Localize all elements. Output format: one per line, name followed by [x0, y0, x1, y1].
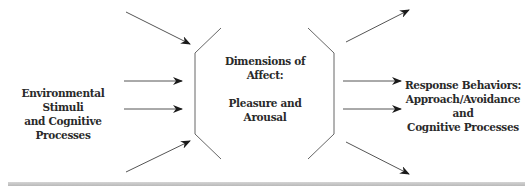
output-label: Response Behaviors: Approach/Avoidance a… — [402, 78, 524, 134]
output-label-line2: Approach/Avoidance and — [402, 92, 524, 120]
center-label-line2: Affect: — [222, 68, 308, 82]
output-label-line1: Response Behaviors: — [402, 78, 524, 92]
center-label-line4: Arousal — [222, 110, 308, 124]
center-label-line3: Pleasure and — [222, 96, 308, 110]
input-label: Environmental Stimuli and Cognitive Proc… — [2, 86, 124, 142]
input-label-line1: Environmental Stimuli — [2, 86, 124, 114]
output-arrow-bottom — [346, 142, 409, 174]
output-label-line3: Cognitive Processes — [402, 120, 524, 134]
input-arrow-bottom — [126, 141, 190, 172]
center-label-line1: Dimensions of — [222, 54, 308, 68]
bottom-divider-bar — [8, 182, 525, 186]
input-label-line2: and Cognitive Processes — [2, 114, 124, 142]
left-bracket — [195, 28, 221, 159]
center-label-spacer — [222, 82, 308, 96]
stimulus-affect-response-diagram: Environmental Stimuli and Cognitive Proc… — [0, 0, 525, 186]
input-arrow-top — [126, 12, 190, 44]
center-label: Dimensions of Affect: Pleasure and Arous… — [222, 54, 308, 124]
right-bracket — [308, 28, 334, 159]
output-arrow-top — [346, 10, 409, 42]
